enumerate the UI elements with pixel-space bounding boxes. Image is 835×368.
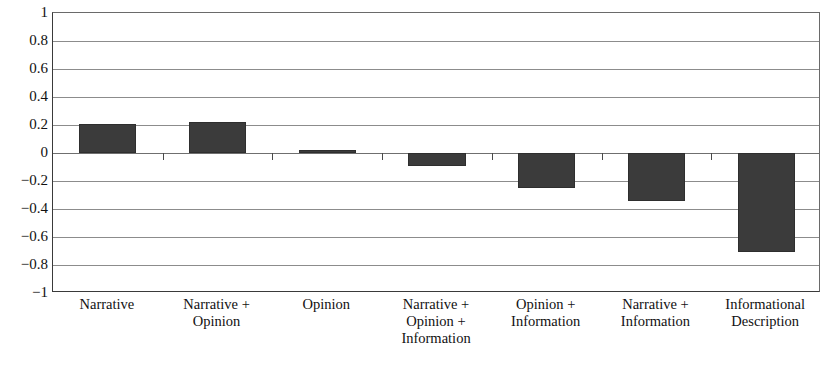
- x-axis-tick-mark: [711, 153, 712, 160]
- y-axis-tick-label: −0.4: [4, 201, 48, 216]
- x-axis-category-label-line: Information: [603, 313, 709, 330]
- y-axis-tick-label: 0.6: [4, 61, 48, 76]
- y-axis-tick-label: 0.2: [4, 117, 48, 132]
- y-axis-tick-label: 0: [4, 145, 48, 160]
- y-axis-tick-label: 1: [4, 5, 48, 20]
- x-axis-category-label-line: Opinion: [164, 313, 270, 330]
- x-axis-category-label-line: Narrative: [54, 296, 160, 313]
- x-axis-category-label-line: Opinion +: [493, 296, 599, 313]
- bar: [408, 153, 465, 166]
- bar-chart: 10.80.60.40.20−0.2−0.4−0.6−0.8−1 Narrati…: [0, 0, 835, 368]
- x-axis-category-label: Narrative: [52, 296, 162, 366]
- bar: [628, 153, 685, 201]
- y-axis-tick-label: −0.2: [4, 173, 48, 188]
- x-axis-category-label: Narrative +Opinion +Information: [381, 296, 491, 366]
- x-axis-category-labels: NarrativeNarrative +OpinionOpinionNarrat…: [52, 296, 820, 366]
- y-axis-tick-label: 0.8: [4, 33, 48, 48]
- y-axis-tick-labels: 10.80.60.40.20−0.2−0.4−0.6−0.8−1: [0, 0, 48, 300]
- bar: [518, 153, 575, 188]
- gridline: [53, 69, 819, 70]
- x-axis-category-label-line: Informational: [712, 296, 818, 313]
- x-axis-tick-mark: [382, 153, 383, 160]
- x-axis-category-label-line: Narrative +: [603, 296, 709, 313]
- x-axis-tick-mark: [272, 153, 273, 160]
- x-axis-category-label-line: Opinion: [273, 296, 379, 313]
- x-axis-category-label-line: Narrative +: [383, 296, 489, 313]
- x-axis-category-label-line: Information: [383, 330, 489, 347]
- y-axis-tick-label: −0.6: [4, 229, 48, 244]
- gridline: [53, 265, 819, 266]
- gridline: [53, 181, 819, 182]
- plot-area: [52, 12, 820, 292]
- x-axis-category-label-line: Opinion +: [383, 313, 489, 330]
- x-axis-tick-mark: [602, 153, 603, 160]
- bar: [738, 153, 795, 252]
- gridline: [53, 125, 819, 126]
- x-axis-category-label-line: Description: [712, 313, 818, 330]
- y-axis-tick-label: −1: [4, 285, 48, 300]
- x-axis-category-label: Opinion: [271, 296, 381, 366]
- gridline: [53, 237, 819, 238]
- x-axis-category-label: Narrative +Opinion: [162, 296, 272, 366]
- y-axis-tick-label: −0.8: [4, 257, 48, 272]
- x-axis-category-label-line: Information: [493, 313, 599, 330]
- x-axis-category-label: Narrative +Information: [601, 296, 711, 366]
- x-axis-category-label: InformationalDescription: [710, 296, 820, 366]
- gridline: [53, 97, 819, 98]
- gridline: [53, 209, 819, 210]
- x-axis-tick-mark: [492, 153, 493, 160]
- bar: [189, 122, 246, 153]
- x-axis-category-label: Opinion +Information: [491, 296, 601, 366]
- gridline: [53, 41, 819, 42]
- x-axis-category-label-line: Narrative +: [164, 296, 270, 313]
- y-axis-tick-label: 0.4: [4, 89, 48, 104]
- bar: [79, 124, 136, 153]
- bar: [299, 150, 356, 153]
- x-axis-tick-mark: [163, 153, 164, 160]
